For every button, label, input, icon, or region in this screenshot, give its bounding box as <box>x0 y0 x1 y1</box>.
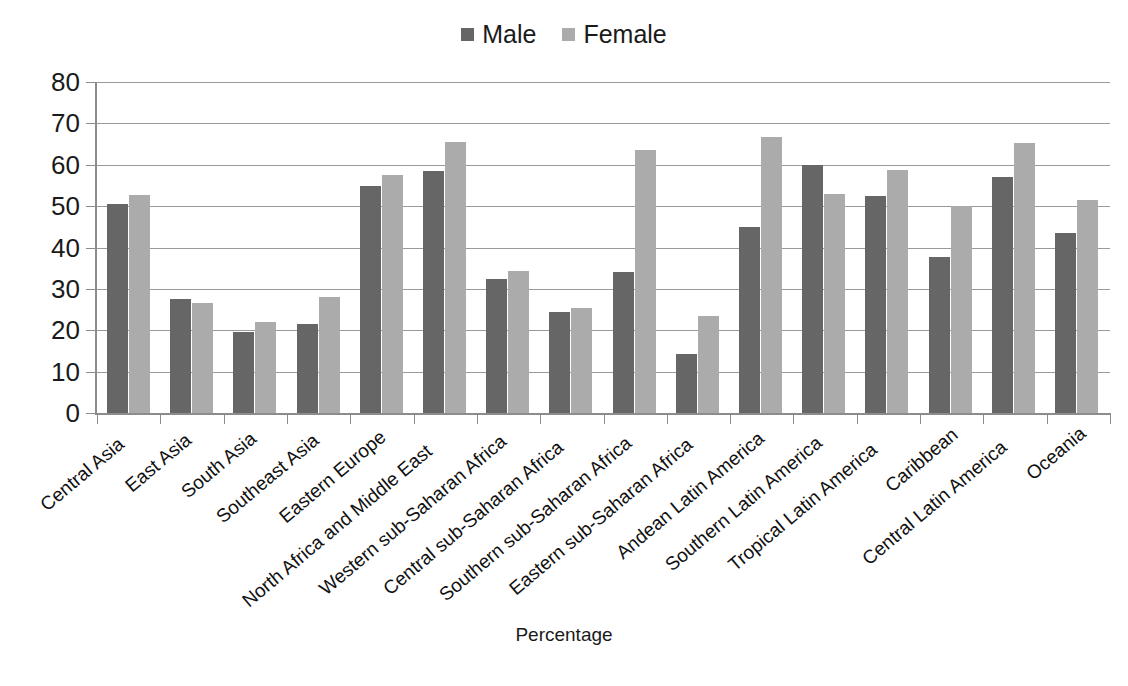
x-axis-tick <box>730 413 731 424</box>
bar-group <box>476 82 539 413</box>
legend-swatch-male <box>461 28 474 41</box>
x-axis-tick <box>414 413 415 424</box>
bar-male[interactable] <box>360 186 381 413</box>
legend-label-male: Male <box>482 22 536 47</box>
bar-female[interactable] <box>698 316 719 413</box>
legend-item-female: Female <box>562 22 666 47</box>
y-axis-tick-label: 60 <box>0 152 80 178</box>
bar-group <box>918 82 981 413</box>
x-axis-tick <box>97 413 98 424</box>
x-axis-tick <box>160 413 161 424</box>
bar-group <box>603 82 666 413</box>
x-axis-tick <box>477 413 478 424</box>
bar-female[interactable] <box>951 206 972 413</box>
bar-male[interactable] <box>929 257 950 413</box>
y-axis-tick <box>86 330 97 331</box>
bar-group <box>666 82 729 413</box>
bar-groups <box>97 82 1108 413</box>
bar-male[interactable] <box>297 324 318 413</box>
bar-group <box>223 82 286 413</box>
x-axis-tick <box>667 413 668 424</box>
bar-male[interactable] <box>865 196 886 413</box>
bar-male[interactable] <box>613 272 634 413</box>
bar-group <box>287 82 350 413</box>
bar-male[interactable] <box>233 332 254 413</box>
bar-female[interactable] <box>887 170 908 413</box>
bar-female[interactable] <box>761 137 782 413</box>
x-axis-tick <box>604 413 605 424</box>
bar-male[interactable] <box>423 171 444 413</box>
bar-female[interactable] <box>319 297 340 413</box>
x-axis-ticks <box>97 413 1108 424</box>
x-axis-category-label: Oceania <box>1022 423 1090 485</box>
bar-male[interactable] <box>549 312 570 413</box>
bar-group <box>855 82 918 413</box>
bar-female[interactable] <box>635 150 656 413</box>
bar-group <box>1045 82 1108 413</box>
y-axis-tick <box>86 413 97 414</box>
y-axis-tick <box>86 123 97 124</box>
x-axis-tick <box>540 413 541 424</box>
bar-female[interactable] <box>192 303 213 413</box>
y-axis-tick <box>86 165 97 166</box>
x-axis-tick <box>1110 413 1111 424</box>
y-axis-tick-label: 10 <box>0 359 80 385</box>
y-axis-tick <box>86 206 97 207</box>
y-axis-tick <box>86 82 97 83</box>
bar-female[interactable] <box>824 194 845 413</box>
y-axis-tick <box>86 248 97 249</box>
x-axis-category-label: Eastern Europe <box>275 426 390 527</box>
x-axis-category-labels: Central AsiaEast AsiaSouth AsiaSoutheast… <box>0 424 1128 614</box>
x-axis-title: Percentage <box>0 624 1128 646</box>
bar-group <box>729 82 792 413</box>
bar-female[interactable] <box>445 142 466 413</box>
bar-male[interactable] <box>170 299 191 413</box>
bar-male[interactable] <box>739 227 760 413</box>
y-axis-tick-label: 20 <box>0 317 80 343</box>
y-axis-tick <box>86 372 97 373</box>
bar-group <box>413 82 476 413</box>
y-axis-tick-labels: 01020304050607080 <box>0 82 80 413</box>
y-axis-tick-label: 40 <box>0 235 80 261</box>
bar-female[interactable] <box>508 271 529 413</box>
x-axis-tick <box>287 413 288 424</box>
bar-female[interactable] <box>1077 200 1098 413</box>
bar-female[interactable] <box>382 175 403 413</box>
y-axis-tick-label: 80 <box>0 69 80 95</box>
y-axis-tick-label: 0 <box>0 400 80 426</box>
y-axis-tick <box>86 289 97 290</box>
legend-item-male: Male <box>461 22 536 47</box>
bar-male[interactable] <box>992 177 1013 413</box>
bar-group <box>539 82 602 413</box>
bar-female[interactable] <box>255 322 276 413</box>
x-axis-tick <box>350 413 351 424</box>
chart-legend: Male Female <box>0 22 1128 47</box>
bar-group <box>792 82 855 413</box>
x-axis-tick <box>857 413 858 424</box>
bar-female[interactable] <box>129 195 150 413</box>
x-axis-tick <box>920 413 921 424</box>
y-axis-tick-label: 50 <box>0 193 80 219</box>
x-axis-tick <box>983 413 984 424</box>
bar-male[interactable] <box>107 204 128 413</box>
bar-group <box>982 82 1045 413</box>
bar-male[interactable] <box>486 279 507 413</box>
bar-male[interactable] <box>676 354 697 413</box>
bar-male[interactable] <box>802 165 823 413</box>
x-axis-tick <box>224 413 225 424</box>
y-axis-tick-label: 30 <box>0 276 80 302</box>
bar-group <box>160 82 223 413</box>
bar-female[interactable] <box>1014 143 1035 413</box>
bar-group <box>97 82 160 413</box>
x-axis-tick <box>793 413 794 424</box>
legend-swatch-female <box>562 28 575 41</box>
bar-group <box>350 82 413 413</box>
legend-label-female: Female <box>583 22 666 47</box>
x-axis-category-label: Central Asia <box>36 433 128 515</box>
bar-male[interactable] <box>1055 233 1076 413</box>
bar-female[interactable] <box>571 308 592 413</box>
y-axis-tick-label: 70 <box>0 110 80 136</box>
x-axis-tick <box>1047 413 1048 424</box>
